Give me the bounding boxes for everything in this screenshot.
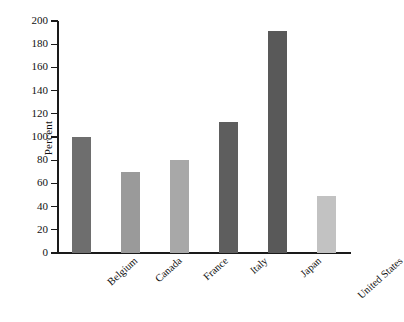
y-tick-label: 40 [2,201,48,212]
bar [121,172,141,253]
y-tick-label: 140 [2,85,48,96]
y-tick-label: 20 [2,224,48,235]
bars-layer [57,21,351,253]
y-tick-label-wrap: 60 [0,177,48,188]
y-tick-label-wrap: 80 [0,154,48,165]
y-tick-label-wrap: 200 [0,15,48,26]
x-tick-label: Canada [153,255,184,284]
x-tick-label: United States [355,255,404,301]
y-tick-label: 160 [2,61,48,72]
x-tick-label: Italy [247,255,269,276]
bar [219,122,239,253]
bar [268,31,288,253]
bar [72,137,92,253]
y-tick-label-wrap: 140 [0,85,48,96]
y-tick-label: 80 [2,154,48,165]
y-tick-label-wrap: 20 [0,224,48,235]
x-tick-label: Belgium [105,255,139,287]
y-tick-label: 120 [2,108,48,119]
bar [317,196,337,253]
y-tick-label: 200 [2,15,48,26]
y-tick-label-wrap: 40 [0,201,48,212]
y-tick-label-wrap: 160 [0,61,48,72]
y-tick-label: 60 [2,177,48,188]
y-tick-label-wrap: 120 [0,108,48,119]
x-axis-labels: BelgiumCanadaFranceItalyJapanUnited Stat… [57,255,351,321]
y-tick-label-wrap: 0 [0,247,48,258]
x-tick-label: France [201,255,230,282]
x-tick-label: Japan [298,255,323,279]
bar [170,160,190,253]
y-tick-label: 180 [2,38,48,49]
y-tick-label-wrap: 100 [0,131,48,142]
y-tick-label: 0 [2,247,48,258]
y-tick-label-wrap: 180 [0,38,48,49]
y-tick-label: 100 [2,131,48,142]
